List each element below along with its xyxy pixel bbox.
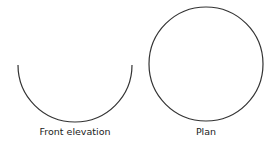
front-elevation-label: Front elevation [39,126,110,137]
front-elevation-semicircle [18,65,132,122]
diagram-canvas [0,0,279,142]
plan-label: Plan [196,126,216,137]
plan-circle [149,7,263,121]
